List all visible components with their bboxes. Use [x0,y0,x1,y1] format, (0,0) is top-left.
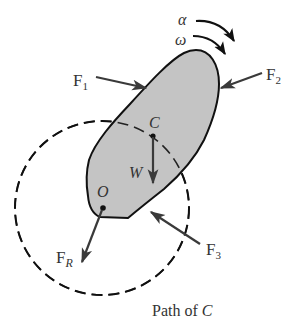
fr-label: FR [56,248,73,270]
f1-label: F1 [73,71,88,92]
omega-label: ω [175,31,186,48]
o-label: O [97,183,109,200]
f1-arrow [96,77,146,88]
f2-arrow [221,73,262,88]
f3-arrow [151,212,200,244]
fr-arrow [82,210,102,262]
f2-label: F2 [266,65,281,86]
w-label: W [129,164,144,181]
path-of-c-caption: Path of C [152,302,213,319]
c-label: C [149,114,160,131]
diagram-canvas: α ω F1 F2 C W O FR F3 Path of C [0,0,283,330]
f3-label: F3 [206,240,221,261]
alpha-label: α [178,11,187,28]
